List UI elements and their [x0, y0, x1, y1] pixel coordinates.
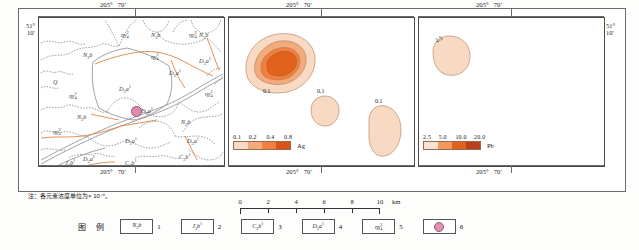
scale-tick-4: 4: [294, 198, 297, 205]
legend-swatch-deposit: [423, 219, 456, 234]
legend-number-1: 1: [157, 223, 161, 231]
legend-swatch-n2b: N2b: [120, 219, 153, 234]
legend-symbol-n2b: N2b: [132, 222, 141, 230]
legend-symbol-etagamma: ηγ24: [375, 223, 382, 231]
lon-minute: 70′: [304, 168, 312, 175]
scale-tick-2: 2: [266, 198, 269, 205]
scale-bar-line: [240, 208, 380, 214]
geo-label-n2b: N2b: [181, 118, 190, 127]
ag-break-1: 0.1: [233, 134, 247, 140]
deposit-dot-icon: [434, 222, 444, 232]
legend-symbol-j3b: J3b1: [192, 221, 202, 231]
lon-degree: 205°: [100, 168, 113, 175]
graticule-top-label: 205°70′: [286, 1, 312, 8]
lon-degree: 205°: [286, 1, 299, 8]
ag-color-ramp: [233, 141, 291, 150]
legend-item-deposit[interactable]: 6: [423, 219, 464, 234]
scale-bar-labels: 0 2 4 6 8 10 km: [240, 198, 385, 207]
contour-label-ag: 0.1: [317, 88, 325, 94]
graticule-top-label: 205°70′: [476, 1, 502, 8]
graticule-bottom-label: 205°70′: [476, 168, 502, 175]
geo-label-etagamma: ηγ24: [205, 90, 213, 98]
lon-minute: 70′: [304, 1, 312, 8]
lat-minute: 10′: [606, 29, 624, 36]
geo-label-d3a: D3a1: [169, 68, 181, 78]
lon-degree: 205°: [476, 1, 489, 8]
legend-swatch-d3a: D3a1: [302, 219, 335, 234]
legend-item-d3a[interactable]: D3a1 4: [302, 219, 343, 234]
geo-label-d3a: D3a1: [141, 106, 153, 116]
ag-break-4: 0.8: [284, 134, 300, 140]
scale-tick-10: 10: [377, 198, 384, 205]
ag-map-body: 0.1 0.1 0.1 0.1 0.2 0.4 0.8 Ag: [228, 17, 415, 167]
legend-number-4: 4: [339, 223, 343, 231]
geo-label-etagamma: ηγ24: [121, 31, 129, 39]
lon-minute: 70′: [494, 1, 502, 8]
scale-tick-8: 8: [350, 198, 353, 205]
contour-label-ag: 0.1: [263, 88, 271, 94]
scale-tick-6: 6: [322, 198, 325, 205]
pb-map-body: 2.5 2.5 5.0 10.0 20.0 Pb: [418, 17, 605, 167]
ag-break-2: 0.2: [249, 134, 265, 140]
lon-degree: 205°: [100, 1, 113, 8]
lat-minute: 10′: [18, 29, 35, 36]
legend-number-6: 6: [460, 223, 464, 231]
graticule-right-label: 51° 10′: [606, 22, 624, 36]
legend-swatch-j3b: J3b1: [181, 219, 214, 234]
geo-label-d3a: D3a1: [83, 154, 95, 164]
pb-break-1: 2.5: [423, 134, 437, 140]
geology-map-body: N2b N2b N2b N2b N2b Q ηγ24 ηγ24 ηγ24 ηγ2…: [38, 17, 225, 167]
geo-label-n2b: N2b: [83, 51, 92, 60]
ag-break-3: 0.4: [266, 134, 282, 140]
legend-item-c2b[interactable]: C2b1 3: [241, 219, 282, 234]
geo-label-d3a: D3a1: [119, 84, 131, 94]
graticule-bottom-label: 205°70′: [100, 168, 126, 175]
geo-label-d3a: D3a1: [125, 136, 137, 146]
figure-root: 205°70′ 51° 10′: [0, 0, 639, 250]
lon-minute: 70′: [118, 1, 126, 8]
pb-colorbar-ticks: 2.5 5.0 10.0 20.0: [423, 134, 494, 140]
pb-colorbar: 2.5 5.0 10.0 20.0 Pb: [423, 134, 494, 150]
legend-number-5: 5: [399, 223, 403, 231]
lon-minute: 70′: [118, 168, 126, 175]
geo-label-etagamma: ηγ24: [189, 31, 197, 39]
geo-label-n2b: N2b: [199, 31, 208, 40]
pb-break-3: 10.0: [455, 134, 472, 140]
geo-label-etagamma: ηγ24: [53, 128, 61, 136]
geo-label-n2b: N2b: [77, 113, 86, 122]
geo-label-c2b: C2b1: [179, 152, 191, 162]
legend-symbol-c2b: C2b1: [252, 221, 263, 231]
geo-label-n2b: N2b: [151, 31, 160, 40]
legend: 图 例 N2b 1 J3b1 2 C2b1 3 D3a1 4: [78, 219, 483, 234]
lat-degree: 51°: [606, 22, 624, 29]
legend-number-3: 3: [278, 223, 282, 231]
contour-label-ag: 0.1: [375, 98, 383, 104]
geo-label-d3a: D3a1: [187, 136, 199, 146]
legend-swatch-c2b: C2b1: [241, 219, 274, 234]
graticule-top-label: 205°70′: [100, 1, 126, 8]
geo-label-etagamma: ηγ24: [69, 92, 77, 100]
scale-bar: 0 2 4 6 8 10 km: [240, 198, 385, 214]
lon-degree: 205°: [286, 168, 299, 175]
units-note: 注：各元素浓度单位为× 10⁻⁶。: [28, 191, 111, 200]
legend-item-j3b[interactable]: J3b1 2: [181, 219, 222, 234]
legend-symbol-d3a: D3a1: [312, 221, 324, 231]
panel-ag-anomaly-map: 205°70′ 0.1 0.1 0.1 0.1 0.2: [224, 0, 414, 182]
legend-swatch-etagamma: ηγ24: [362, 219, 395, 234]
legend-number-2: 2: [218, 223, 222, 231]
ag-colorbar-ticks: 0.1 0.2 0.4 0.8: [233, 134, 305, 140]
panel-pb-anomaly-map: 205°70′ 51° 10′ 2.5 2.5 5.0 10.0 20.0: [414, 0, 624, 182]
panel-geological-map: 205°70′ 51° 10′: [18, 0, 224, 182]
legend-item-etagamma[interactable]: ηγ24 5: [362, 219, 403, 234]
pb-color-ramp: [423, 141, 481, 150]
geo-label-d3a: D3a1: [199, 56, 211, 66]
geo-label-q: Q: [53, 78, 57, 85]
geo-label-etagamma: ηγ24: [151, 53, 159, 61]
scale-unit: km: [392, 198, 400, 205]
legend-title: 图 例: [78, 221, 108, 232]
lon-minute: 70′: [494, 168, 502, 175]
ore-deposit-point[interactable]: [131, 106, 142, 117]
legend-item-n2b[interactable]: N2b 1: [120, 219, 161, 234]
pb-break-2: 5.0: [439, 134, 454, 140]
ag-colorbar: 0.1 0.2 0.4 0.8 Ag: [233, 134, 305, 150]
